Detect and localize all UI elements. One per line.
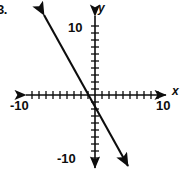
y-axis-label: y: [98, 2, 105, 14]
x-axis-label: x: [172, 85, 179, 97]
plotted-line: [44, 15, 128, 166]
y-axis-min-tick-label: -10: [57, 152, 76, 165]
x-axis: [26, 91, 166, 99]
y-axis-max-tick-label: 10: [68, 21, 82, 34]
x-axis-max-tick-label: 10: [156, 99, 170, 112]
y-axis: [91, 16, 99, 168]
coordinate-plane-svg: [0, 0, 187, 177]
x-axis-min-tick-label: -10: [10, 99, 29, 112]
coordinate-graph-figure: 3.: [0, 0, 187, 177]
